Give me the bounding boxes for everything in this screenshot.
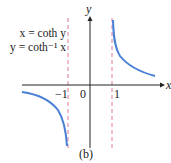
- tick-label-0: 0: [80, 87, 86, 101]
- x-axis-label: x: [165, 78, 171, 92]
- equation-2: y = coth⁻¹ x: [6, 40, 66, 55]
- curve-right-branch: [113, 20, 155, 76]
- caption: (b): [79, 147, 93, 161]
- tick-label-1: 1: [114, 87, 120, 101]
- equation-1: x = coth y: [10, 26, 66, 41]
- x-axis-arrow-icon: [160, 83, 165, 88]
- tick-label-neg1: −1: [55, 87, 68, 101]
- y-axis-arrow-icon: [88, 16, 93, 21]
- y-axis-label: y: [85, 2, 92, 16]
- coth-inverse-graph: x y −1 0 1 (b): [0, 0, 171, 163]
